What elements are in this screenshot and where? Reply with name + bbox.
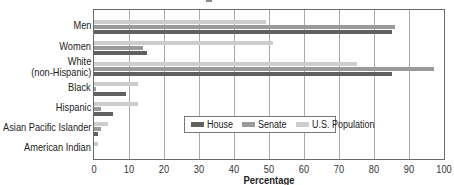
legend: HouseSenateU.S. Population: [184, 116, 336, 133]
bar-house: [94, 72, 392, 76]
legend-item: U.S. Population: [296, 119, 382, 130]
legend-label: U.S. Population: [312, 119, 375, 130]
bar-u-s-population: [94, 122, 108, 126]
category-label: Women: [59, 41, 91, 52]
bar-house: [94, 112, 113, 116]
bar-house: [94, 132, 98, 136]
bar-senate: [94, 46, 143, 50]
bar-u-s-population: [94, 41, 273, 45]
category-label: Asian Pacific Islander: [3, 122, 91, 133]
legend-swatch: [191, 122, 204, 127]
bar-u-s-population: [94, 102, 138, 106]
legend-label: House: [207, 119, 233, 130]
category-label: American Indian: [24, 142, 91, 153]
gridline: [409, 10, 410, 159]
bar-house: [94, 30, 392, 34]
legend-item: House: [191, 119, 236, 130]
bar-u-s-population: [94, 82, 138, 86]
category-label: Hispanic: [56, 102, 91, 113]
x-tick-label: 100: [436, 163, 451, 175]
legend-item: Senate: [242, 119, 290, 130]
category-label: Black: [68, 82, 91, 93]
plot-area: [93, 9, 445, 160]
legend-label: Senate: [258, 119, 287, 130]
bar-senate: [94, 25, 395, 29]
x-axis-label: Percentage: [111, 174, 428, 185]
bar-house: [94, 92, 126, 96]
bar-house: [94, 51, 147, 55]
bar-u-s-population: [94, 20, 266, 24]
x-tick-label: 0: [91, 163, 96, 175]
bar-senate: [94, 127, 101, 131]
bar-senate: [94, 87, 96, 91]
category-label: Men: [73, 20, 91, 31]
bar-senate: [94, 107, 101, 111]
bar-u-s-population: [94, 62, 357, 66]
bar-u-s-population: [94, 142, 98, 146]
bar-senate: [94, 67, 434, 71]
chart-title-fragment: [206, 0, 212, 2]
category-label: White(non-Hispanic): [31, 56, 91, 78]
bar-chart: MenWomenWhite(non-Hispanic)BlackHispanic…: [0, 0, 454, 185]
legend-swatch: [242, 122, 255, 127]
legend-swatch: [296, 122, 309, 127]
